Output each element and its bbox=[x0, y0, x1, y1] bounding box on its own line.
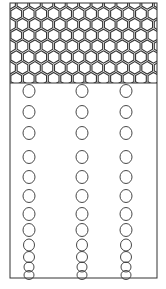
hexagon-cell bbox=[17, 18, 28, 30]
hexagon-cell bbox=[117, 83, 128, 95]
sphere-circle bbox=[120, 224, 132, 237]
hexagon-cell bbox=[55, 62, 66, 74]
hexagon-cell bbox=[92, 0, 103, 9]
hexagon-cell bbox=[129, 18, 140, 30]
hexagon-cell bbox=[98, 29, 109, 41]
hexagon-cell bbox=[104, 40, 115, 52]
hexagon-cell bbox=[0, 72, 9, 84]
hexagon-cell bbox=[42, 18, 53, 30]
hexagon-cell bbox=[17, 62, 28, 74]
hexagon-cell bbox=[67, 62, 78, 74]
hexagon-cell bbox=[92, 40, 103, 52]
hexagon-cell bbox=[73, 51, 84, 63]
hexagon-cell bbox=[73, 8, 84, 20]
sphere-circle bbox=[120, 208, 132, 221]
hexagon-cell bbox=[161, 51, 166, 63]
hexagon-cell bbox=[129, 83, 140, 95]
hexagon-cell bbox=[142, 83, 153, 95]
sphere-circle bbox=[120, 106, 132, 119]
hexagon-cell bbox=[30, 62, 41, 74]
hexagon-cell bbox=[73, 29, 84, 41]
hexagon-cell bbox=[117, 62, 128, 74]
sphere-circle bbox=[23, 208, 35, 221]
hexagon-cell bbox=[161, 8, 166, 20]
sphere-circle bbox=[120, 171, 132, 184]
hexagon-cell bbox=[117, 0, 128, 9]
hexagon-cell bbox=[129, 0, 140, 9]
hexagon-cell bbox=[142, 18, 153, 30]
hexagon-cell bbox=[55, 40, 66, 52]
hexagon-cell bbox=[67, 18, 78, 30]
hexagon-cell bbox=[154, 18, 165, 30]
hexagon-cell bbox=[154, 40, 165, 52]
hexagon-cell bbox=[61, 51, 72, 63]
hexagon-cell bbox=[154, 62, 165, 74]
sphere-circle bbox=[76, 224, 88, 237]
hexagon-cell bbox=[42, 83, 53, 95]
hexagon-cell bbox=[17, 40, 28, 52]
sphere-circle bbox=[76, 106, 88, 119]
hexagon-cell bbox=[98, 51, 109, 63]
hexagon-cell bbox=[48, 51, 59, 63]
sphere-circle bbox=[120, 190, 132, 203]
hexagon-cell bbox=[86, 51, 97, 63]
hexagon-cell bbox=[98, 8, 109, 20]
hexagon-cell bbox=[67, 0, 78, 9]
hexagon-cell bbox=[123, 51, 134, 63]
sphere-circle bbox=[76, 190, 88, 203]
hexagon-cell bbox=[0, 83, 3, 95]
hexagon-cell bbox=[86, 29, 97, 41]
hexagon-cell bbox=[136, 8, 147, 20]
hexagon-cell bbox=[111, 51, 122, 63]
hexagon-cell bbox=[129, 40, 140, 52]
hexagon-cell bbox=[104, 62, 115, 74]
hexagon-cell bbox=[0, 0, 3, 9]
hexagon-cell bbox=[23, 51, 34, 63]
hexagon-cell bbox=[161, 29, 166, 41]
hexagon-cell bbox=[17, 0, 28, 9]
sphere-circle bbox=[120, 127, 132, 140]
sphere-circle bbox=[76, 171, 88, 184]
hexagon-cell bbox=[92, 83, 103, 95]
hexagon-cell bbox=[11, 51, 22, 63]
sphere-circle bbox=[24, 239, 35, 251]
hexagon-cell bbox=[61, 8, 72, 20]
diagram bbox=[0, 0, 166, 289]
hexagon-cell bbox=[111, 29, 122, 41]
hexagon-cell bbox=[79, 40, 90, 52]
hexagon-cell bbox=[23, 8, 34, 20]
hexagon-cell bbox=[79, 62, 90, 74]
hexagon-cell bbox=[42, 40, 53, 52]
hexagon-cell bbox=[23, 29, 34, 41]
sphere-circle bbox=[23, 224, 35, 237]
hexagon-cell bbox=[30, 0, 41, 9]
hexagon-cell bbox=[154, 0, 165, 9]
hexagon-cell bbox=[136, 51, 147, 63]
hexagon-cell bbox=[67, 40, 78, 52]
hexagon-cell bbox=[86, 8, 97, 20]
sphere-circle bbox=[23, 85, 35, 98]
hexagon-cell bbox=[42, 0, 53, 9]
sphere-circle bbox=[76, 127, 88, 140]
hexagon-cell bbox=[55, 0, 66, 9]
hexagon-cell bbox=[142, 40, 153, 52]
honeycomb-pattern bbox=[0, 0, 166, 96]
hexagon-cell bbox=[104, 83, 115, 95]
hexagon-cell bbox=[154, 83, 165, 95]
sphere-circle bbox=[76, 85, 88, 98]
hexagon-cell bbox=[11, 29, 22, 41]
hexagon-cell bbox=[111, 8, 122, 20]
hexagon-cell bbox=[0, 18, 3, 30]
hexagon-cell bbox=[55, 18, 66, 30]
hexagon-cell bbox=[0, 51, 9, 63]
hexagon-cell bbox=[123, 29, 134, 41]
hexagon-cell bbox=[0, 40, 3, 52]
hexagon-cell bbox=[36, 51, 47, 63]
sphere-circle bbox=[23, 106, 35, 119]
sphere-circle bbox=[121, 252, 132, 263]
sphere-circle bbox=[23, 127, 35, 140]
hexagon-cell bbox=[117, 18, 128, 30]
sphere-columns bbox=[23, 85, 132, 280]
hexagon-cell bbox=[136, 29, 147, 41]
hexagon-cell bbox=[142, 62, 153, 74]
